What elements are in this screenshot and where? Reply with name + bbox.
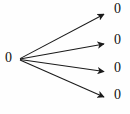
fan-graph-figure: 0 0 0 0 0 [0,0,130,114]
edge-group [20,14,104,97]
target-node-label-3: 0 [114,88,121,102]
target-node-label-1: 0 [114,33,121,47]
target-node-label-0: 0 [114,2,121,16]
source-node-label: 0 [5,51,12,65]
target-node-label-2: 0 [114,61,121,75]
graph-canvas [0,0,130,114]
